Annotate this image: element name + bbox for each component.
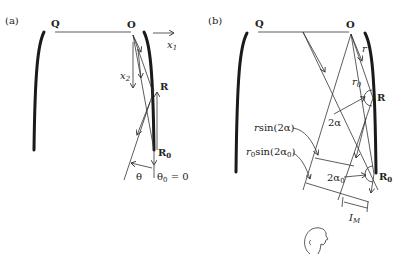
panel-a-label: (a) bbox=[5, 15, 19, 26]
point-r0-label: R0 bbox=[158, 147, 171, 160]
r0sin-width-line bbox=[306, 183, 369, 202]
rsin-pointer bbox=[293, 128, 318, 155]
point-q-label: Q bbox=[51, 18, 60, 29]
r-label: r bbox=[362, 43, 368, 54]
ray-o-r0 bbox=[133, 35, 154, 150]
theta0-label: θ0 = 0 bbox=[157, 171, 189, 184]
panel-b: (b) Q O r r0 R R0 2α 2α0 bbox=[208, 15, 392, 254]
two-alpha-label: 2α bbox=[328, 117, 341, 128]
diagram-canvas: (a) Q O x1 x2 R R0 θ θ0 = 0 bbox=[0, 0, 404, 271]
im-tick-left bbox=[342, 197, 343, 207]
point-q-label-b: Q bbox=[255, 18, 264, 29]
theta-label: θ bbox=[136, 171, 142, 182]
ray-qline bbox=[303, 32, 378, 190]
im-tick-right bbox=[367, 202, 368, 212]
angle-arc-r0 bbox=[365, 166, 373, 182]
ray-qline-arrow bbox=[303, 32, 325, 72]
ray-r-arrow bbox=[351, 34, 362, 61]
r0-label: r0 bbox=[352, 76, 362, 89]
im-label: IM bbox=[348, 212, 361, 225]
im-width-line bbox=[344, 202, 367, 208]
point-r-label: R bbox=[160, 81, 169, 92]
x2-label: x2 bbox=[120, 70, 131, 83]
two-alpha0-label: 2α0 bbox=[327, 172, 345, 185]
rsin-width-line bbox=[315, 158, 354, 166]
panel-b-label: (b) bbox=[208, 15, 222, 26]
point-o-label: O bbox=[127, 19, 136, 30]
two-alpha-arrow bbox=[334, 97, 365, 114]
point-r0-label-b: R0 bbox=[379, 171, 392, 184]
x1-label: x1 bbox=[167, 39, 177, 52]
rsin-label: rsin(2α) bbox=[254, 122, 295, 133]
ray-o-downleft bbox=[303, 34, 351, 190]
left-mirror bbox=[34, 32, 44, 150]
reflected-arrow-b bbox=[356, 118, 366, 158]
theta-arrow bbox=[131, 163, 152, 168]
point-o-label-b: O bbox=[346, 19, 355, 30]
r0sin-label: r0sin(2α0) bbox=[246, 146, 296, 159]
panel-a: (a) Q O x1 x2 R R0 θ θ0 = 0 bbox=[5, 15, 189, 184]
two-alpha0-arrow bbox=[344, 175, 366, 177]
observer-head-icon bbox=[305, 228, 328, 254]
point-r-label-b: R bbox=[377, 92, 386, 103]
